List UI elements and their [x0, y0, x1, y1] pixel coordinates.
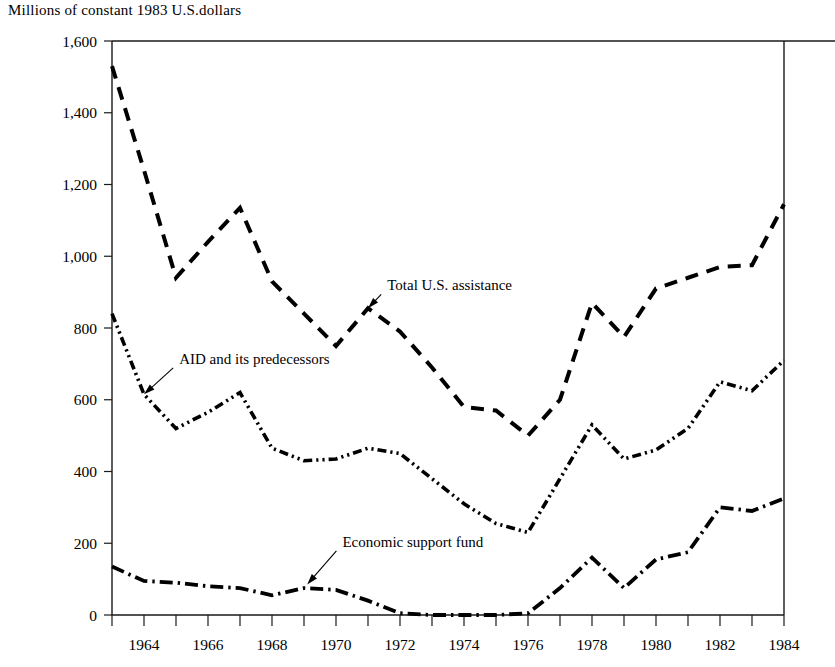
annotation-leader-line: [148, 368, 173, 390]
chart-figure: Millions of constant 1983 U.S.dollars 02…: [0, 0, 835, 667]
x-tick-label: 1968: [257, 636, 288, 653]
chart-axes: [112, 41, 835, 615]
x-tick-label: 1982: [705, 636, 736, 653]
series-annotation-label: Economic support fund: [342, 534, 483, 550]
x-tick-label: 1976: [513, 636, 544, 653]
y-tick-label: 400: [74, 463, 98, 480]
annotation-leader-line: [311, 551, 336, 580]
series-annotation-label: AID and its predecessors: [179, 351, 330, 367]
y-axis-tick-labels: 02004006008001,0001,2001,4001,600: [62, 33, 97, 624]
y-tick-label: 1,400: [62, 104, 97, 121]
x-tick-label: 1964: [129, 636, 160, 653]
chart-series-lines: [112, 66, 784, 615]
axis-spines: [112, 41, 784, 615]
series-line: [112, 66, 784, 436]
series-line: [112, 314, 784, 533]
x-tick-label: 1974: [449, 636, 480, 653]
x-tick-label: 1972: [385, 636, 416, 653]
x-tick-label: 1984: [769, 636, 800, 653]
y-tick-label: 0: [89, 607, 97, 624]
x-tick-label: 1980: [641, 636, 672, 653]
series-annotation-label: Total U.S. assistance: [387, 277, 512, 293]
y-tick-label: 600: [74, 391, 98, 408]
series-line: [112, 498, 784, 615]
line-chart-plot: 02004006008001,0001,2001,4001,600 196419…: [0, 0, 835, 667]
y-tick-label: 1,600: [62, 33, 97, 50]
y-tick-label: 1,000: [62, 248, 97, 265]
x-tick-label: 1970: [321, 636, 352, 653]
x-axis-tick-labels: 1964196619681970197219741976197819801982…: [129, 636, 800, 653]
chart-series-annotations: Total U.S. assistanceAID and its predece…: [144, 277, 512, 584]
y-tick-label: 1,200: [62, 176, 97, 193]
x-tick-label: 1966: [193, 636, 224, 653]
y-tick-label: 200: [74, 535, 98, 552]
x-tick-label: 1978: [577, 636, 608, 653]
y-tick-label: 800: [74, 320, 98, 337]
